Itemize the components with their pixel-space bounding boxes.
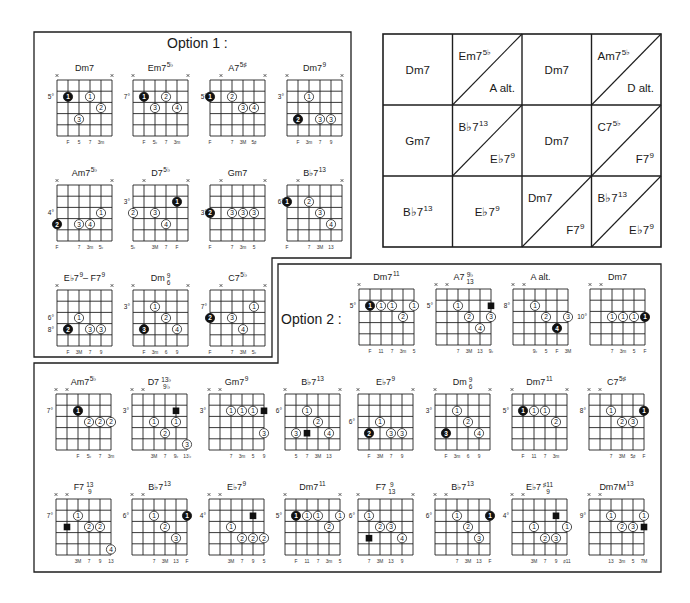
- chord-extension: 9: [650, 222, 654, 231]
- chord-name-base: E♭7: [475, 206, 495, 218]
- chord-name-base: Dm7: [545, 135, 569, 147]
- chord-name: E♭79: [194, 478, 279, 492]
- chord-name: A79♭13: [421, 268, 506, 282]
- chord-name-base: Dm7: [608, 272, 627, 282]
- chord-extension: 5♭: [483, 48, 491, 57]
- chord-name-base: Dm7: [528, 192, 552, 204]
- chord-extension: 13: [319, 166, 326, 173]
- cell-chord: Gm7: [383, 134, 453, 148]
- chord-name: Dm711: [344, 268, 429, 282]
- chord-extension: 5♭: [240, 271, 247, 278]
- cell-chord: Dm7: [383, 63, 453, 77]
- chord-extension: 9: [650, 151, 654, 160]
- chord-name-base: Dm: [151, 273, 165, 283]
- chord-name-base: F7: [74, 482, 85, 492]
- chord-extension: 9: [102, 271, 106, 278]
- chord-name-base: Em7: [148, 63, 167, 73]
- chord-name-base: D7: [148, 377, 160, 387]
- chord-extension-lower: 6: [167, 280, 171, 287]
- chord-extension: 11: [393, 270, 400, 277]
- chord-name: D713♭9♭: [117, 373, 202, 387]
- chord-name-base: Dm7: [545, 64, 569, 76]
- chord-name-base: E♭7: [227, 482, 242, 492]
- chord-name-base: F7: [636, 153, 649, 165]
- chord-extension: 5♭: [613, 119, 621, 128]
- chord-name: E♭7♯119: [497, 478, 582, 492]
- chord-extension: 13: [164, 480, 171, 487]
- cell-chord-lower: D alt.: [592, 81, 655, 95]
- text-overlay: Option 1 : Option 2 : Dm7Em75♭A75♯Dm79Am…: [0, 0, 690, 603]
- chord-name-base: C7: [228, 273, 240, 283]
- chord-name: B♭713: [117, 478, 202, 492]
- chord-name: B♭713: [272, 164, 357, 178]
- chord-extension: 9: [511, 151, 515, 160]
- chord-name-base: Dm7: [75, 63, 94, 73]
- chord-name: D75♭: [118, 164, 203, 178]
- chord-name-base: Dm7M: [599, 482, 626, 492]
- chord-extension-stack: 9♭13: [466, 272, 473, 285]
- chord-extension: 9: [391, 375, 395, 382]
- chord-name-base: A alt.: [530, 272, 550, 282]
- chord-name-base: E♭7: [376, 377, 391, 387]
- chord-name-base: C7: [598, 121, 613, 133]
- chord-name: A alt.: [498, 268, 583, 282]
- chord-name-base: B♭7: [301, 377, 316, 387]
- chord-name-base: Am7: [71, 377, 90, 387]
- chord-name: C75♭: [195, 269, 280, 283]
- cell-chord-upper: C75♭: [598, 120, 622, 136]
- chord-name-base: Dm7: [406, 64, 430, 76]
- cell-chord-upper: B♭713: [598, 191, 627, 207]
- chord-extension: 13: [467, 480, 474, 487]
- chord-name-base: Dm7: [373, 272, 392, 282]
- chord-extension-lower: 13: [466, 279, 473, 286]
- chord-extension-lower: 9: [546, 489, 550, 496]
- cell-chord-lower: F79: [592, 152, 655, 168]
- chord-extension: 9: [245, 375, 249, 382]
- chord-extension-stack: ♯119: [543, 482, 553, 495]
- chord-extension-stack: 96: [167, 273, 171, 286]
- cell-chord-lower: E♭79: [592, 223, 655, 239]
- chord-name-base: D7: [151, 168, 163, 178]
- chord-extension: 13: [618, 190, 627, 199]
- chord-name: Dm7M13: [574, 478, 659, 492]
- chord-extension: 9: [580, 222, 584, 231]
- chord-extension: 9: [79, 271, 83, 278]
- chord-name-base: Em7: [459, 50, 483, 62]
- chord-name: A75♯: [195, 59, 280, 73]
- chord-name-base: F7: [566, 224, 579, 236]
- chord-extension: 5♭: [91, 166, 98, 173]
- cell-chord: Dm7: [522, 134, 592, 148]
- chord-name-base: E♭7: [490, 153, 510, 165]
- chord-name: Em75♭: [118, 59, 203, 73]
- chord-name-base: Dm7: [303, 63, 322, 73]
- option-1-title: Option 1 :: [167, 35, 228, 51]
- chord-extension-lower: 9: [88, 489, 92, 496]
- chord-name: Dm7: [575, 268, 660, 282]
- cell-chord-upper: Dm7: [528, 191, 552, 205]
- chord-extension: 13: [317, 375, 324, 382]
- chord-chart-page: 5°1123F573m7°1234F5♭73m5°1234F73M5♯3°123…: [0, 0, 690, 603]
- option-2-title: Option 2 :: [281, 311, 342, 327]
- chord-name: E♭79 – F79: [42, 269, 127, 283]
- chord-extension-stack: 96: [469, 377, 473, 390]
- chord-extension: 5♭: [163, 166, 170, 173]
- chord-extension: 9: [242, 480, 246, 487]
- chord-extension: 11: [546, 375, 553, 382]
- chord-name-base: Gm7: [228, 168, 248, 178]
- chord-name: Gm79: [194, 373, 279, 387]
- chord-name-base: F7: [376, 482, 387, 492]
- chord-name: Am75♭: [41, 373, 126, 387]
- chord-name: F7139: [41, 478, 126, 492]
- chord-extension-stack: 13♭9♭: [161, 377, 171, 390]
- chord-extension: 5♯: [619, 375, 626, 382]
- chord-extension: 5♭: [622, 48, 630, 57]
- chord-name-base: C7: [607, 377, 619, 387]
- chord-extension-stack: 139: [86, 482, 93, 495]
- cell-chord: B♭713: [383, 205, 453, 221]
- chord-name: Gm7: [195, 164, 280, 178]
- chord-name-base: Gm7: [225, 377, 245, 387]
- chord-name-base: B♭7: [451, 482, 466, 492]
- chord-name-base: E♭7: [64, 273, 79, 283]
- chord-extension: 9: [495, 204, 499, 213]
- chord-extension: 13: [626, 480, 633, 487]
